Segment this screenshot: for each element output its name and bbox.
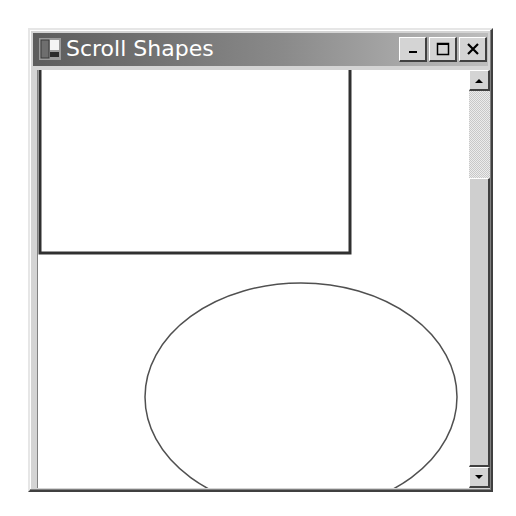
minimize-button[interactable] [399, 37, 427, 62]
scroll-down-arrow-icon [475, 475, 483, 480]
scroll-thumb[interactable] [469, 178, 490, 467]
app-window-icon[interactable] [39, 38, 61, 60]
maximize-icon [436, 42, 450, 56]
scroll-down-button[interactable] [469, 467, 490, 488]
close-icon [466, 42, 480, 56]
minimize-icon [407, 43, 419, 55]
scroll-up-button[interactable] [469, 70, 490, 91]
maximize-button[interactable] [429, 37, 457, 62]
vertical-scrollbar[interactable] [469, 70, 490, 488]
close-button[interactable] [459, 37, 487, 62]
drawing-canvas[interactable] [37, 70, 470, 488]
shapes-canvas [38, 70, 470, 488]
app-window: Scroll Shapes [28, 28, 493, 492]
title-bar[interactable]: Scroll Shapes [33, 33, 488, 66]
scroll-up-arrow-icon [475, 78, 483, 83]
rectangle-shape [40, 70, 350, 253]
ellipse-shape [145, 283, 457, 488]
window-title: Scroll Shapes [66, 35, 214, 63]
